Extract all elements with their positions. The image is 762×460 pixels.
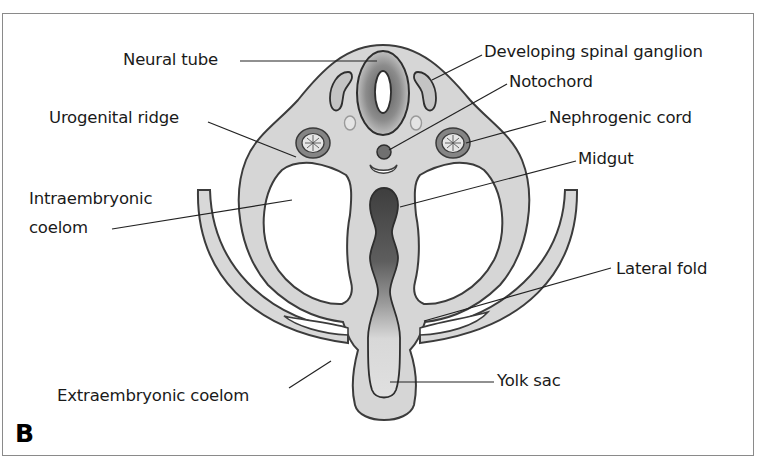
label-yolk-sac: Yolk sac (497, 373, 561, 390)
label-notochord: Notochord (509, 74, 593, 91)
label-nephrogenic-cord: Nephrogenic cord (549, 110, 692, 127)
label-midgut: Midgut (578, 151, 634, 168)
mesoderm-vesicle-left (345, 116, 356, 130)
label-intraembryonic-coelom-line1: Intraembryonic (29, 191, 152, 208)
label-urogenital-ridge: Urogenital ridge (49, 110, 179, 127)
label-intraembryonic-coelom-line2: coelom (29, 220, 88, 237)
nephrogenic-cord-right (436, 128, 470, 158)
mesoderm-vesicle-right (411, 116, 422, 130)
neural-tube (357, 51, 409, 135)
leader-extraembryonic-coelom (289, 361, 331, 388)
label-extraembryonic-coelom: Extraembryonic coelom (57, 388, 249, 405)
label-lateral-fold: Lateral fold (616, 261, 707, 278)
label-developing-spinal-ganglion: Developing spinal ganglion (484, 44, 703, 61)
notochord (377, 145, 391, 159)
nephrogenic-cord-left (296, 128, 330, 158)
label-neural-tube: Neural tube (123, 52, 218, 69)
panel-letter: B (15, 421, 34, 446)
